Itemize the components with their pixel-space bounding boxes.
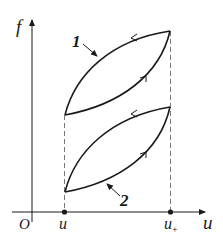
curve-label-1: 1 bbox=[72, 32, 81, 51]
loop-2 bbox=[65, 107, 170, 192]
loop-1-upper-arc bbox=[65, 31, 170, 115]
hysteresis-diagram: f u O u u+ 1 2 bbox=[0, 0, 223, 239]
axes bbox=[12, 20, 205, 222]
tick-dot-u bbox=[62, 209, 67, 214]
label-2-pointer bbox=[107, 184, 120, 196]
tick-label-u-plus-base: u bbox=[164, 215, 172, 232]
loop-1-lower-arc bbox=[65, 31, 170, 115]
curve-label-2: 2 bbox=[119, 191, 129, 210]
loop-2-upper-arc bbox=[65, 107, 170, 192]
dashed-guides bbox=[65, 31, 171, 212]
tick-dot-u-plus bbox=[168, 209, 173, 214]
label-1-pointer bbox=[83, 44, 97, 56]
tick-label-u-plus: u+ bbox=[164, 215, 178, 235]
tick-label-u: u bbox=[59, 215, 67, 232]
tick-label-u-plus-subscript: + bbox=[172, 224, 178, 235]
y-axis-label: f bbox=[16, 16, 24, 37]
loop-1 bbox=[65, 31, 170, 115]
loop-2-lower-arc bbox=[65, 107, 170, 192]
origin-label: O bbox=[19, 216, 30, 232]
x-axis-label: u bbox=[203, 212, 213, 233]
